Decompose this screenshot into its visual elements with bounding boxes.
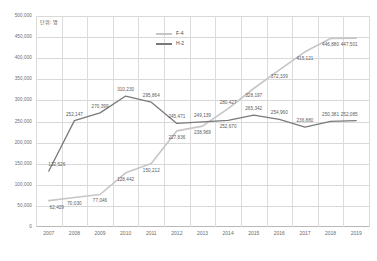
legend-item-f4[interactable]: F-4 [156,31,184,36]
x-tick-label: 2018 [325,231,336,236]
data-point-label: 227,836 [168,136,185,141]
data-point-label: 252,085 [341,112,358,117]
line-chart: 050,000100,000150,000200,000250,000300,0… [0,0,377,261]
legend: F-4 H-2 [156,31,184,46]
data-point-label: 265,342 [245,107,262,112]
x-axis-labels: 2007200820092010201120122013201420152016… [36,231,369,245]
gridline-horizontal [36,58,369,59]
gridline-vertical [190,16,191,227]
gridline-vertical [369,16,370,227]
data-point-label: 245,471 [168,115,185,120]
x-axis-line [36,226,369,227]
gridline-horizontal [36,122,369,123]
data-point-label: 415,121 [296,57,313,62]
gridline-vertical [62,16,63,227]
x-tick-label: 2007 [43,231,54,236]
gridline-vertical [241,16,242,227]
y-tick-label: 250,000 [15,119,32,124]
y-tick-label: 0 [29,225,32,230]
legend-swatch-f4 [156,33,172,35]
y-tick-label: 350,000 [15,77,32,82]
legend-label-f4: F-4 [176,31,184,36]
data-point-label: 70,030 [67,202,81,207]
y-axis-labels: 050,000100,000150,000200,000250,000300,0… [0,16,34,227]
x-tick-label: 2015 [248,231,259,236]
x-tick-label: 2009 [94,231,105,236]
x-tick-label: 2012 [171,231,182,236]
y-tick-label: 100,000 [15,183,32,188]
gridline-horizontal [36,100,369,101]
data-point-label: 295,864 [143,94,160,99]
y-tick-label: 150,000 [15,161,32,166]
data-point-label: 236,880 [296,119,313,124]
x-tick-label: 2010 [120,231,131,236]
plot-area [36,16,369,227]
x-tick-label: 2016 [274,231,285,236]
data-point-label: 150,212 [143,168,160,173]
gridline-vertical [164,16,165,227]
gridline-horizontal [36,79,369,80]
data-point-label: 270,399 [92,105,109,110]
gridline-vertical [292,16,293,227]
gridline-horizontal [36,185,369,186]
gridline-vertical [113,16,114,227]
y-tick-label: 50,000 [17,204,32,209]
legend-item-h2[interactable]: H-2 [156,41,184,46]
gridline-vertical [343,16,344,227]
data-point-label: 132,526 [48,163,65,168]
gridline-vertical [36,16,37,227]
data-point-label: 252,670 [220,125,237,130]
x-tick-label: 2014 [223,231,234,236]
x-tick-label: 2011 [146,231,157,236]
x-tick-label: 2008 [69,231,80,236]
data-point-label: 252,147 [66,112,83,117]
data-point-label: 77,046 [93,199,107,204]
gridline-vertical [267,16,268,227]
y-tick-label: 450,000 [15,35,32,40]
data-point-label: 372,339 [271,75,288,80]
data-point-label: 62,429 [50,205,64,210]
data-point-label: 128,442 [117,178,134,183]
gridline-horizontal [36,164,369,165]
data-point-label: 447,501 [341,43,358,48]
x-tick-label: 2019 [351,231,362,236]
legend-label-h2: H-2 [176,41,184,46]
unit-caption: 단위: 명 [38,18,60,27]
gridline-vertical [318,16,319,227]
gridline-horizontal [36,37,369,38]
legend-swatch-h2 [156,43,172,45]
x-tick-label: 2017 [299,231,310,236]
gridline-horizontal [36,143,369,144]
data-point-label: 254,960 [271,111,288,116]
y-tick-label: 400,000 [15,56,32,61]
y-tick-label: 500,000 [15,14,32,19]
gridline-horizontal [36,16,369,17]
data-point-label: 446,880 [322,43,339,48]
gridline-vertical [87,16,88,227]
gridline-horizontal [36,206,369,207]
data-point-label: 238,969 [194,131,211,136]
gridline-vertical [215,16,216,227]
y-tick-label: 200,000 [15,140,32,145]
y-tick-label: 300,000 [15,98,32,103]
gridline-vertical [138,16,139,227]
data-point-label: 310,230 [117,88,134,93]
data-point-label: 328,197 [245,93,262,98]
data-point-label: 280,427 [220,100,237,105]
data-point-label: 249,139 [194,114,211,119]
x-tick-label: 2013 [197,231,208,236]
data-point-label: 250,381 [322,113,339,118]
